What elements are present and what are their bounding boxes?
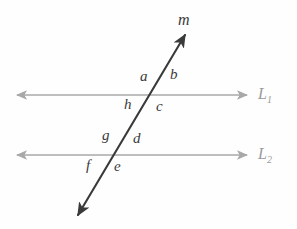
angle-label-a: a: [140, 69, 148, 84]
transversal-line-m: [78, 35, 185, 215]
line-label-L1: L1: [258, 86, 272, 105]
angle-label-g: g: [102, 128, 110, 143]
transversal-label-m: m: [178, 12, 190, 28]
line-label-L2-base: L: [258, 145, 267, 162]
angle-label-f: f: [86, 158, 90, 173]
line-label-L2-subscript: 2: [267, 154, 272, 165]
geometry-figure: m a b c h g d e f L1 L2: [0, 0, 297, 229]
angle-label-d: d: [133, 131, 141, 146]
line-label-L1-subscript: 1: [267, 94, 272, 105]
angle-label-b: b: [170, 67, 178, 82]
figure-canvas: [0, 0, 297, 229]
line-label-L1-base: L: [258, 85, 267, 102]
angle-label-e: e: [114, 159, 121, 174]
angle-label-c: c: [156, 99, 163, 114]
line-label-L2: L2: [258, 146, 272, 165]
angle-label-h: h: [124, 97, 132, 112]
